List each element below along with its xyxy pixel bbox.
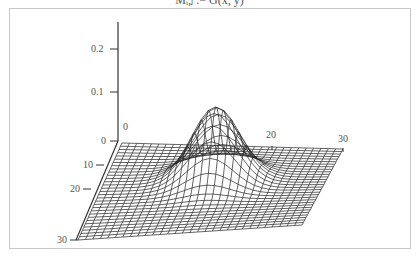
y-label-20: 20 (70, 183, 80, 194)
y-axis (76, 141, 118, 240)
x-label-30: 30 (338, 133, 348, 144)
surface-plot: 0.2 0.1 0 0 20 30 10 20 30 (0, 0, 419, 256)
x-label-0: 0 (123, 121, 128, 132)
x-label-20: 20 (266, 129, 276, 140)
z-label-0.1: 0.1 (91, 86, 104, 97)
z-label-0.2: 0.2 (91, 43, 104, 54)
y-label-30: 30 (57, 234, 67, 245)
z-label-0: 0 (101, 135, 106, 146)
y-label-10: 10 (83, 159, 93, 170)
